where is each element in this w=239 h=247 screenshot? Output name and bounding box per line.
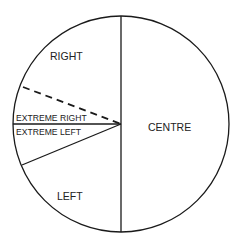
label-right: RIGHT bbox=[50, 50, 83, 62]
label-extreme-right: EXTREME RIGHT bbox=[16, 113, 87, 123]
political-spectrum-pie-diagram: RIGHT EXTREME RIGHT EXTREME LEFT LEFT CE… bbox=[0, 0, 239, 247]
label-extreme-left: EXTREME LEFT bbox=[16, 127, 82, 137]
label-centre: CENTRE bbox=[148, 121, 191, 133]
label-left: LEFT bbox=[57, 190, 83, 202]
